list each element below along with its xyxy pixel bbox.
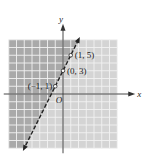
point-label: (0, 3) — [67, 66, 87, 76]
data-point — [53, 84, 57, 88]
origin-label: O — [56, 95, 63, 105]
x-axis-arrow-icon — [128, 92, 135, 97]
point-label: (1, 5) — [75, 50, 95, 60]
y-axis-arrow-icon — [61, 24, 66, 31]
data-point — [69, 53, 73, 57]
inequality-graph: x y O (−1, 1)(0, 3)(1, 5) — [0, 0, 151, 159]
point-label: (−1, 1) — [28, 81, 53, 91]
x-axis-label: x — [136, 89, 141, 99]
y-axis-label: y — [58, 14, 63, 24]
data-point — [61, 69, 65, 73]
